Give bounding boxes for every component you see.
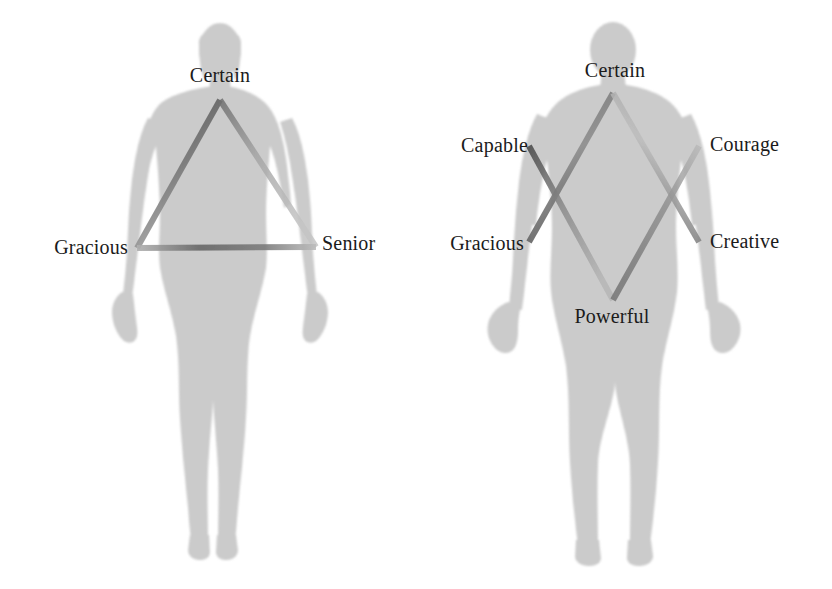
- male-figure-label-courage: Courage: [710, 134, 779, 154]
- female-figure-label-certain: Certain: [190, 65, 250, 85]
- female-figure-label-senior: Senior: [322, 233, 375, 253]
- male-figure-label-certain: Certain: [585, 60, 645, 80]
- female-figure-label-gracious: Gracious: [54, 237, 128, 257]
- male-figure-label-powerful: Powerful: [575, 306, 650, 326]
- figures-canvas: [0, 0, 832, 589]
- male-figure-label-gracious: Gracious: [450, 233, 524, 253]
- diagram-page: { "figures": [ { "id": "female-figure", …: [0, 0, 832, 589]
- male-figure-label-capable: Capable: [461, 135, 528, 155]
- male-figure-label-creative: Creative: [710, 231, 779, 251]
